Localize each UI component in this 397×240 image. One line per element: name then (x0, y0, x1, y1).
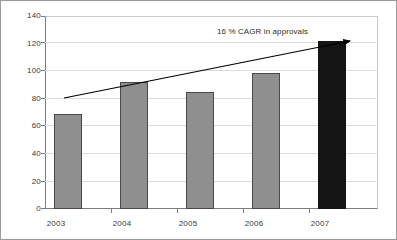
y-tick-label-120: 120 (3, 39, 41, 48)
y-tick-label-0: 0 (3, 204, 41, 213)
x-tick-mark-2 (177, 209, 178, 213)
y-tick-mark-40 (41, 153, 45, 154)
y-tick-mark-140 (41, 16, 45, 17)
bar-2004[interactable] (120, 82, 148, 209)
y-tick-mark-0 (41, 208, 45, 209)
y-tick-label-140: 140 (3, 11, 41, 20)
chart-figure: 140 120 100 80 60 40 20 0 (0, 0, 397, 240)
x-tick-label-2003: 2003 (40, 219, 72, 229)
x-tick-mark-3 (243, 209, 244, 213)
cagr-annotation-label: 16 % CAGR in approvals (217, 27, 308, 37)
bar-2006[interactable] (252, 73, 280, 209)
y-axis-labels: 140 120 100 80 60 40 20 0 (1, 1, 41, 240)
y-tick-mark-80 (41, 98, 45, 99)
bar-2005[interactable] (186, 92, 214, 209)
x-tick-label-2005: 2005 (172, 219, 204, 229)
y-tick-mark-100 (41, 70, 45, 71)
x-tick-label-2007: 2007 (304, 219, 336, 229)
x-tick-mark-1 (111, 209, 112, 213)
x-tick-mark-4 (309, 209, 310, 213)
y-tick-label-100: 100 (3, 66, 41, 75)
x-tick-label-2004: 2004 (106, 219, 138, 229)
x-tick-label-2006: 2006 (238, 219, 270, 229)
plot-area (45, 16, 378, 209)
y-tick-label-60: 60 (3, 121, 41, 130)
y-tick-label-20: 20 (3, 177, 41, 186)
bar-2003[interactable] (54, 114, 82, 209)
y-tick-label-40: 40 (3, 149, 41, 158)
y-tick-mark-120 (41, 42, 45, 43)
y-tick-mark-60 (41, 125, 45, 126)
y-tick-label-80: 80 (3, 94, 41, 103)
bar-2007[interactable] (318, 41, 346, 209)
y-tick-mark-20 (41, 181, 45, 182)
